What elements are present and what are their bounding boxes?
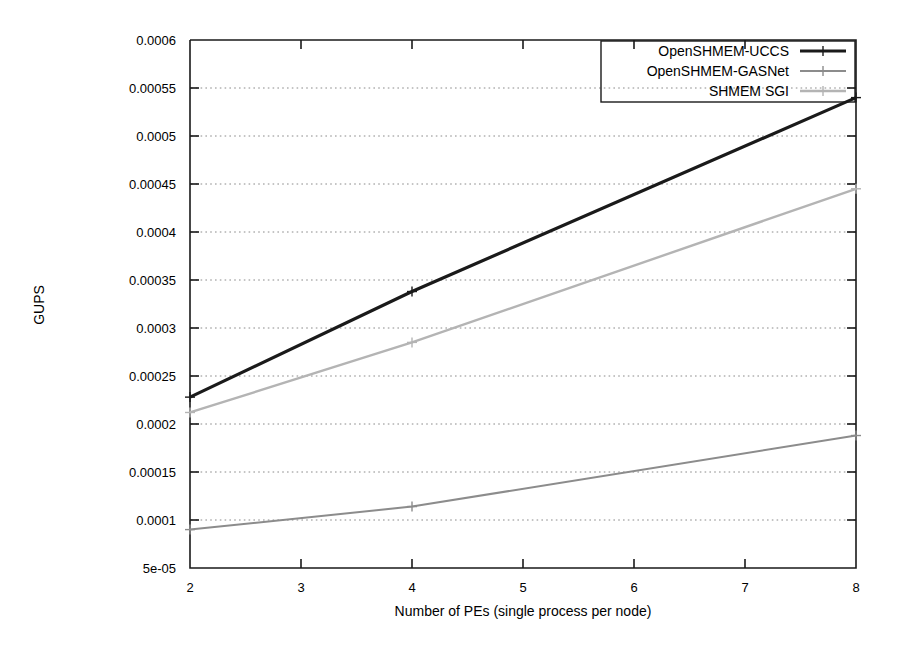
y-axis-title: GUPS — [31, 285, 47, 325]
x-axis-tick-label: 6 — [630, 580, 637, 595]
x-axis-tick-label: 4 — [408, 580, 415, 595]
y-axis-tick-label: 0.0003 — [136, 321, 176, 336]
y-axis-tick-label: 0.00015 — [129, 465, 176, 480]
legend-label-shmem-sgi: SHMEM SGI — [709, 83, 789, 99]
y-axis-tick-label: 0.0005 — [136, 129, 176, 144]
x-axis-tick-label: 3 — [297, 580, 304, 595]
gups-line-chart-figure: 5e-050.00010.000150.00020.000250.00030.0… — [0, 0, 902, 664]
legend-label-openshmem-gasnet: OpenSHMEM-GASNet — [647, 63, 789, 79]
x-axis-tick-label: 8 — [852, 580, 859, 595]
x-axis-title: Number of PEs (single process per node) — [395, 603, 652, 619]
chart-svg: 5e-050.00010.000150.00020.000250.00030.0… — [0, 0, 902, 664]
y-axis-tick-label: 0.0006 — [136, 33, 176, 48]
y-axis-tick-label: 0.00025 — [129, 369, 176, 384]
y-axis-tick-label: 0.00055 — [129, 81, 176, 96]
y-axis-tick-label: 0.0001 — [136, 513, 176, 528]
y-axis-tick-label: 0.00035 — [129, 273, 176, 288]
legend-label-openshmem-uccs: OpenSHMEM-UCCS — [658, 43, 789, 59]
y-axis-tick-label: 0.0004 — [136, 225, 176, 240]
y-axis-tick-label: 5e-05 — [143, 561, 176, 576]
x-axis-tick-label: 5 — [519, 580, 526, 595]
y-axis-tick-label: 0.0002 — [136, 417, 176, 432]
y-axis-tick-label: 0.00045 — [129, 177, 176, 192]
x-axis-tick-label: 7 — [741, 580, 748, 595]
x-axis-tick-label: 2 — [186, 580, 193, 595]
